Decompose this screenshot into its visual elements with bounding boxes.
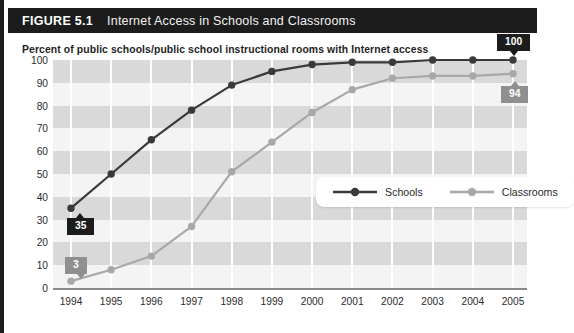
legend-label-schools: Schools [385,186,423,198]
x-axis-tick-label: 1994 [60,296,83,307]
callout-pointer [77,274,85,279]
y-axis-tick-label: 30 [37,214,48,225]
y-axis-tick-label: 20 [37,237,48,248]
y-axis: 0102030405060708090100 [22,60,48,302]
data-point-marker[interactable] [268,138,275,145]
data-point-marker[interactable] [429,56,436,63]
data-point-marker[interactable] [469,56,476,63]
x-axis-tick-label: 1999 [261,296,284,307]
data-point-marker[interactable] [509,70,516,77]
y-axis-tick-label: 40 [37,191,48,202]
x-axis-tick-label: 2004 [461,296,484,307]
y-axis-tick-label: 50 [37,169,48,180]
data-point-marker[interactable] [509,56,516,63]
data-point-marker[interactable] [349,86,356,93]
legend-label-classrooms: Classrooms [502,186,558,198]
callout-value: 35 [75,220,86,231]
callout-schools-end: 100 [497,34,530,51]
x-axis-tick-label: 2000 [301,296,324,307]
data-point-marker[interactable] [188,223,195,230]
data-point-marker[interactable] [67,277,74,284]
chart-subtitle: Percent of public schools/public school … [22,44,428,55]
data-point-marker[interactable] [389,59,396,66]
data-point-marker[interactable] [148,252,155,259]
legend-item-schools[interactable]: Schools [332,186,423,198]
data-point-marker[interactable] [228,81,235,88]
data-point-marker[interactable] [308,61,315,68]
x-axis: 1994199519961997199819992000200120022003… [53,294,527,312]
y-axis-tick-label: 0 [42,283,48,294]
plot-canvas: 35310094 Schools Classrooms [53,60,527,288]
x-axis-tick-label: 1996 [140,296,163,307]
data-point-marker[interactable] [349,59,356,66]
y-axis-tick-label: 90 [37,77,48,88]
data-point-marker[interactable] [308,109,315,116]
x-axis-tick-label: 1997 [180,296,203,307]
callout-classrooms-end: 94 [501,86,528,103]
x-axis-line [53,288,527,290]
y-axis-tick-label: 100 [31,55,48,66]
x-axis-tick-label: 2003 [421,296,444,307]
data-point-marker[interactable] [389,75,396,82]
data-point-marker[interactable] [188,106,195,113]
figure-title-bar: FIGURE 5.1 Internet Access in Schools an… [8,8,537,33]
y-axis-tick-label: 70 [37,123,48,134]
legend-line-marker-classrooms [449,186,495,198]
figure-number: FIGURE 5.1 [22,14,93,28]
data-point-marker[interactable] [469,72,476,79]
data-point-marker[interactable] [429,72,436,79]
callout-pointer [76,213,84,218]
data-point-marker[interactable] [228,168,235,175]
x-axis-tick-label: 1998 [220,296,243,307]
callout-classrooms-start: 3 [65,257,87,274]
plot-area-wrapper: 0102030405060708090100 35310094 Schools [22,60,527,302]
data-point-marker[interactable] [107,170,114,177]
data-point-marker[interactable] [268,68,275,75]
chart-legend: Schools Classrooms [316,177,574,207]
data-point-marker[interactable] [148,136,155,143]
y-axis-tick-label: 80 [37,100,48,111]
callout-pointer [510,51,518,56]
callout-value: 100 [505,36,522,47]
x-axis-tick-label: 2001 [341,296,364,307]
data-point-marker[interactable] [107,266,114,273]
callout-value: 94 [509,88,520,99]
data-point-marker[interactable] [67,205,74,212]
y-axis-tick-label: 60 [37,146,48,157]
y-axis-tick-label: 10 [37,260,48,271]
x-axis-tick-label: 1995 [100,296,123,307]
figure-title: Internet Access in Schools and Classroom… [107,14,356,28]
legend-line-marker-schools [332,186,378,198]
x-axis-tick-label: 2002 [381,296,404,307]
callout-value: 3 [73,259,79,270]
x-axis-tick-label: 2005 [502,296,525,307]
data-series-layer [53,60,527,288]
callout-schools-start: 35 [67,218,94,235]
callout-pointer [511,81,519,86]
legend-item-classrooms[interactable]: Classrooms [449,186,558,198]
